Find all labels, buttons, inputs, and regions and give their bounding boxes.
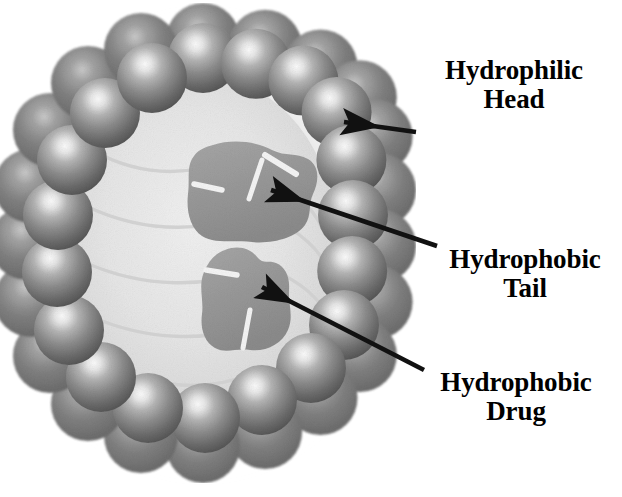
hydrophilic-head-sphere	[117, 43, 187, 113]
label-hydrophilic-head: Hydrophilic Head	[419, 56, 609, 114]
label-hydrophobic-drug-line2: Drug	[418, 397, 614, 426]
label-hydrophilic-head-line2: Head	[419, 85, 609, 114]
label-hydrophilic-head-line1: Hydrophilic	[419, 56, 609, 85]
figure-canvas: Hydrophilic Head Hydrophobic Tail Hydrop…	[0, 0, 622, 497]
hydrophilic-head-sphere	[34, 295, 104, 365]
label-hydrophobic-tail-line1: Hydrophobic	[430, 245, 620, 274]
label-hydrophobic-tail-line2: Tail	[430, 274, 620, 303]
label-hydrophobic-drug: Hydrophobic Drug	[418, 368, 614, 426]
label-hydrophobic-tail: Hydrophobic Tail	[430, 245, 620, 303]
label-hydrophobic-drug-line1: Hydrophobic	[418, 368, 614, 397]
